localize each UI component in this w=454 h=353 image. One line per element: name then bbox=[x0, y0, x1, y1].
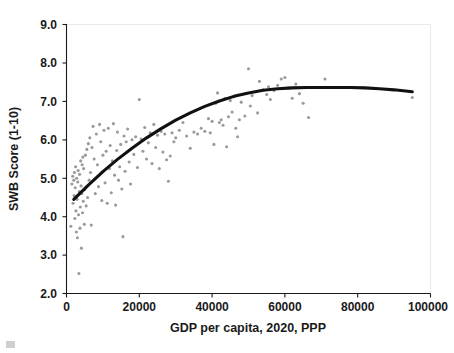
scatter-point bbox=[82, 200, 85, 203]
scatter-point bbox=[167, 180, 170, 183]
scatter-point bbox=[307, 116, 310, 119]
scatter-point bbox=[128, 161, 131, 164]
scatter-point bbox=[72, 202, 75, 205]
scatter-point bbox=[227, 115, 230, 118]
scatter-point bbox=[145, 157, 148, 160]
scatter-point bbox=[117, 179, 120, 182]
scatter-point bbox=[156, 134, 159, 137]
scatter-point bbox=[71, 175, 74, 178]
scatter-point bbox=[92, 125, 95, 128]
scatter-point bbox=[243, 114, 246, 117]
scatter-point bbox=[130, 138, 133, 141]
scatter-point bbox=[90, 146, 93, 149]
scatter-point bbox=[218, 121, 221, 124]
scatter-point bbox=[81, 163, 84, 166]
scatter-point bbox=[97, 185, 100, 188]
y-tick-label: 8.0 bbox=[40, 56, 57, 70]
scatter-point bbox=[169, 154, 172, 157]
scatter-point bbox=[256, 111, 259, 114]
scatter-point bbox=[107, 127, 110, 130]
scatter-point bbox=[280, 78, 283, 81]
scatter-point bbox=[79, 159, 82, 162]
scatter-point bbox=[88, 136, 91, 139]
scatter-point bbox=[87, 142, 90, 145]
scatter-point bbox=[165, 158, 168, 161]
scatter-point bbox=[220, 118, 223, 121]
scatter-point bbox=[70, 182, 73, 185]
scatter-point bbox=[132, 153, 135, 156]
scatter-plot-svg: 9.0 8.0 7.0 6.0 5.0 4.0 3.0 2.0 0 20000 … bbox=[0, 0, 454, 353]
scatter-point bbox=[85, 204, 88, 207]
scatter-point bbox=[113, 174, 116, 177]
scatter-point bbox=[225, 145, 228, 148]
scatter-point bbox=[129, 182, 132, 185]
scatter-point bbox=[114, 204, 117, 207]
scatter-point bbox=[229, 99, 232, 102]
scatter-point bbox=[77, 169, 80, 172]
scatter-point bbox=[192, 131, 195, 134]
x-tick-label: 20000 bbox=[123, 300, 157, 314]
scatter-point bbox=[95, 132, 98, 135]
scatter-point bbox=[112, 122, 115, 125]
scatter-point bbox=[75, 230, 78, 233]
x-tick-label: 80000 bbox=[341, 300, 375, 314]
scatter-point bbox=[249, 104, 252, 107]
scatter-point bbox=[163, 132, 166, 135]
scatter-point bbox=[251, 94, 254, 97]
scatter-point bbox=[234, 127, 237, 130]
scatter-point bbox=[73, 217, 76, 220]
scatter-point bbox=[89, 171, 92, 174]
scatter-point bbox=[124, 170, 127, 173]
scatter-point bbox=[80, 247, 83, 250]
scatter-point bbox=[302, 102, 305, 105]
scatter-point bbox=[82, 167, 85, 170]
scatter-point bbox=[200, 127, 203, 130]
scatter-point bbox=[75, 177, 78, 180]
scatter-point bbox=[189, 147, 192, 150]
scatter-point bbox=[81, 156, 84, 159]
scatter-point bbox=[178, 129, 181, 132]
scatter-point bbox=[171, 131, 174, 134]
scatter-point bbox=[161, 151, 164, 154]
scatter-point bbox=[147, 141, 150, 144]
scatter-point bbox=[79, 205, 82, 208]
scatter-point bbox=[211, 120, 214, 123]
scatter-point bbox=[88, 179, 91, 182]
scatter-point bbox=[99, 140, 102, 143]
scatter-point bbox=[100, 199, 103, 202]
y-tick-label: 2.0 bbox=[40, 287, 57, 301]
scatter-point bbox=[134, 135, 137, 138]
scatter-point bbox=[74, 209, 77, 212]
scatter-point bbox=[231, 111, 234, 114]
scatter-point bbox=[411, 96, 414, 99]
scatter-point bbox=[93, 157, 96, 160]
scatter-point bbox=[122, 134, 125, 137]
y-tick-label: 9.0 bbox=[40, 18, 57, 32]
scatter-point bbox=[105, 150, 108, 153]
scatter-point bbox=[121, 235, 124, 238]
scatter-point bbox=[150, 162, 153, 165]
y-tick-label: 6.0 bbox=[40, 133, 57, 147]
scatter-point bbox=[203, 130, 206, 133]
scatter-point bbox=[119, 143, 122, 146]
scatter-point bbox=[102, 129, 105, 132]
scatter-point bbox=[185, 134, 188, 137]
scatter-point bbox=[77, 213, 80, 216]
scatter-point bbox=[69, 225, 72, 228]
scatter-point bbox=[143, 126, 146, 129]
scatter-point bbox=[265, 93, 268, 96]
scatter-point bbox=[125, 140, 128, 143]
scatter-point bbox=[212, 143, 215, 146]
scatter-point bbox=[172, 140, 175, 143]
scatter-point bbox=[116, 131, 119, 134]
scatter-point bbox=[109, 144, 112, 147]
scatter-point bbox=[247, 67, 250, 70]
scatter-point bbox=[83, 223, 86, 226]
scatter-point bbox=[141, 150, 144, 153]
scatter-point bbox=[283, 76, 286, 79]
scatter-point bbox=[78, 173, 81, 176]
scatter-point bbox=[110, 191, 113, 194]
scatter-point bbox=[294, 83, 297, 86]
scatter-point bbox=[181, 121, 184, 124]
y-axis-title: SWB Score (1-10) bbox=[7, 107, 21, 211]
